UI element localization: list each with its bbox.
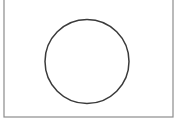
circle-outline [45,20,129,104]
rectangle-frame [4,0,173,117]
figure-canvas [0,0,180,123]
figure-drawing [0,0,180,123]
